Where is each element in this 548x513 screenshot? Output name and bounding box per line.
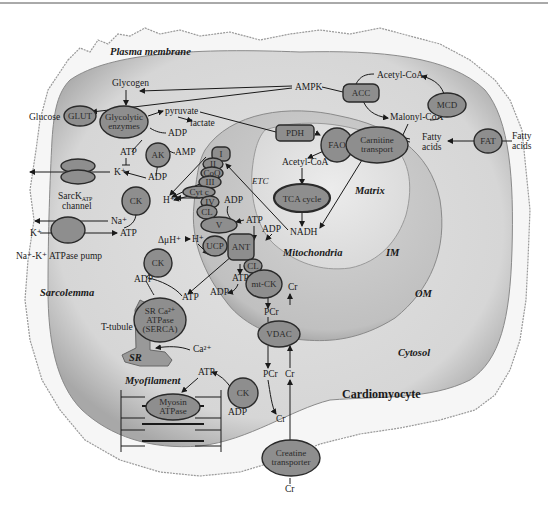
metabolite-ampk: AMPK [295, 82, 323, 92]
metabolite-cr-2: Cr [285, 369, 295, 379]
metabolite-adp-ak: ADP [148, 172, 167, 182]
metabolite-ca: Ca²⁺ [193, 344, 211, 354]
label-etc: ETC [251, 176, 270, 186]
diagram-canvas: Plasma membrane Sarcolemma Matrix IM OM … [0, 0, 548, 513]
metabolite-lactate: lactate [190, 118, 215, 128]
ant-label: ANT [232, 242, 251, 252]
cyt-c-label: Cyt c [189, 187, 208, 197]
metabolite-nadh: NADH [290, 227, 318, 237]
metabolite-glucose: Glucose [29, 112, 60, 122]
metabolite-adp-glycolysis: ADP [168, 128, 187, 138]
ck-mid-label: CK [152, 258, 165, 268]
label-cytosol: Cytosol [398, 347, 430, 358]
metabolite-cr-3: Cr [276, 414, 286, 424]
complex-iii-label: III [206, 177, 215, 187]
ck-top-label: CK [130, 196, 143, 206]
sarc-katp-label-2: channel [62, 201, 92, 211]
metabolite-fatty-acids-out-2: acids [512, 141, 532, 151]
metabolite-adp-ant: ADP [262, 224, 281, 234]
metabolite-pcr-2: PCr [263, 369, 279, 379]
metabolite-fatty-acids-in-1: Fatty [422, 132, 442, 142]
metabolite-na-plus: Na⁺ [111, 216, 127, 226]
fao-label: FAO [328, 140, 346, 150]
metabolite-delta-mu-h: ΔμH⁺ [158, 235, 181, 245]
mt-ck-label: mt-CK [251, 279, 277, 289]
metabolite-acetyl-coa-mito: Acetyl-CoA [282, 157, 329, 167]
metabolite-pyruvate: pyruvate [165, 106, 198, 116]
metabolite-adp-serca: ADP [134, 274, 153, 284]
na-k-pump [51, 217, 85, 243]
metabolism-diagram: Plasma membrane Sarcolemma Matrix IM OM … [0, 0, 548, 513]
metabolite-atp-pump: ATP [120, 228, 137, 238]
metabolite-glycogen: Glycogen [112, 78, 149, 88]
metabolite-h-plus-2: H⁺ [192, 234, 204, 244]
ak-label: AK [152, 150, 165, 160]
complex-i-label: I [220, 149, 223, 159]
sarc-katp-channel-bottom [61, 170, 95, 184]
metabolite-amp: AMP [175, 147, 196, 157]
tca-label: TCA cycle [283, 194, 322, 204]
ucp-label: UCP [206, 241, 224, 251]
label-om: OM [415, 288, 433, 299]
metabolite-adp-ant2: ADP [210, 287, 229, 297]
label-t-tubule: T-tubule [101, 322, 133, 332]
ck-myo-label: CK [237, 388, 250, 398]
creatine-label-2: transporter [272, 457, 311, 467]
pdh-label: PDH [286, 128, 305, 138]
serca-label-3: (SERCA) [142, 324, 177, 334]
label-mitochondria: Mitochondria [282, 247, 343, 258]
glycolytic-label-2: enzymes [108, 121, 140, 131]
cl1-label: CL [201, 207, 213, 217]
metabolite-fatty-acids-out-1: Fatty [512, 131, 532, 141]
fat-label: FAT [480, 136, 496, 146]
label-sarcolemma: Sarcolemma [40, 287, 94, 298]
label-plasma-membrane: Plasma membrane [110, 46, 191, 57]
label-im: IM [385, 247, 400, 258]
myosin-label-2: ATPase [159, 406, 187, 416]
acc-label: ACC [352, 88, 371, 98]
metabolite-atp-serca: ATP [182, 292, 199, 302]
label-matrix: Matrix [354, 185, 385, 196]
nak-pump-label: Na⁺-K⁺ ATPase pump [16, 251, 102, 261]
carnitine-label-2: transport [361, 144, 393, 154]
complex-iv-label: IV [205, 197, 215, 207]
metabolite-fatty-acids-in-2: acids [422, 142, 442, 152]
glut-label: GLUT [68, 111, 92, 121]
complex-v-label: V [216, 220, 223, 230]
label-sr: SR [129, 352, 142, 363]
metabolite-pcr-1: PCr [264, 307, 280, 317]
label-myofilament: Myofilament [124, 375, 181, 386]
metabolite-acetyl-coa-top: Acetyl-CoA [377, 70, 424, 80]
cl2-label: CL [247, 261, 259, 271]
metabolite-cr-mtck: Cr [288, 282, 298, 292]
metabolite-adp-v: ADP [224, 195, 243, 205]
vdac-label: VDAC [266, 329, 292, 339]
mcd-label: MCD [437, 100, 458, 110]
label-cardiomyocyte: Cardiomyocyte [342, 387, 421, 401]
metabolite-atp-v: ATP [246, 215, 263, 225]
metabolite-cr-bottom: Cr [285, 484, 295, 494]
